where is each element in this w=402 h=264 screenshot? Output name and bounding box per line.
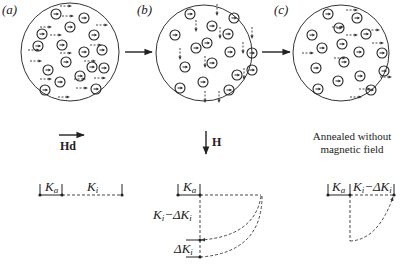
label-delta-ki: ΔKi bbox=[173, 241, 193, 257]
dashed-right-arrow-icon bbox=[96, 23, 108, 26]
grain-icon bbox=[333, 76, 343, 86]
dashed-right-arrow-icon bbox=[346, 33, 358, 36]
label-ka: Ka bbox=[44, 179, 59, 195]
grain-icon bbox=[198, 77, 208, 87]
energy-diagram-b: Ka Ki−ΔKi ΔKi bbox=[152, 179, 262, 259]
grain-icon bbox=[207, 58, 217, 68]
grain-icon bbox=[323, 9, 333, 19]
grain-icon bbox=[51, 9, 61, 19]
grain-icon bbox=[65, 22, 75, 32]
grain-icon bbox=[352, 13, 362, 23]
grain-icon bbox=[377, 48, 387, 58]
grain-icon bbox=[55, 77, 65, 87]
grain-icon bbox=[355, 71, 365, 81]
dashed-down-arrow-icon bbox=[203, 56, 206, 68]
panel-label: (c) bbox=[274, 2, 288, 17]
dashed-right-arrow-icon bbox=[58, 95, 70, 98]
dashed-right-arrow-icon bbox=[62, 14, 74, 17]
dashed-right-arrow-icon bbox=[302, 51, 314, 54]
caption-line-1: Annealed without bbox=[311, 130, 393, 143]
grain-icon bbox=[202, 38, 212, 48]
grain-icon bbox=[91, 84, 101, 94]
label-ki-minus-delta-c: Ki−ΔKi bbox=[352, 179, 392, 195]
grain-icon bbox=[61, 57, 71, 67]
field-label-hd: Hd bbox=[60, 139, 76, 153]
grain-icon bbox=[313, 84, 323, 94]
dashed-down-arrow-icon bbox=[250, 27, 253, 39]
grain-icon bbox=[57, 40, 67, 50]
dashed-right-arrow-icon bbox=[90, 43, 102, 46]
dashed-right-arrow-icon bbox=[40, 25, 52, 28]
grain-icon bbox=[40, 85, 50, 95]
grain-icon bbox=[89, 30, 99, 40]
energy-diagram-c: Ka Ki−ΔKi bbox=[326, 179, 395, 241]
dashed-right-arrow-icon bbox=[40, 77, 52, 80]
grain-icon bbox=[223, 29, 233, 39]
field-indicator-h: H bbox=[206, 131, 222, 154]
grain-icon bbox=[185, 9, 195, 19]
panel-label: (b) bbox=[137, 2, 152, 17]
grain-icon bbox=[87, 62, 97, 72]
dashed-down-arrow-icon bbox=[178, 48, 181, 60]
dashed-down-arrow-icon bbox=[241, 42, 244, 54]
label-ki: Ki bbox=[86, 179, 99, 195]
panel-c: (c) bbox=[274, 2, 392, 101]
dashed-right-arrow-icon bbox=[372, 41, 384, 44]
grain-icon bbox=[311, 63, 321, 73]
grain-icon bbox=[99, 63, 109, 73]
grain-icon bbox=[337, 39, 347, 49]
grain-icon bbox=[79, 47, 89, 57]
grain-panels: (a)(b)(c) bbox=[2, 2, 392, 103]
dashed-down-arrow-icon bbox=[215, 4, 218, 16]
grain-icon bbox=[191, 43, 201, 53]
grain-icon bbox=[354, 47, 364, 57]
field-indicator-hd: Hd bbox=[59, 135, 84, 153]
caption-line-2: magnetic field bbox=[311, 143, 393, 156]
panel-a: (a) bbox=[2, 2, 119, 101]
grain-icon bbox=[43, 65, 53, 75]
dashed-right-arrow-icon bbox=[50, 33, 62, 36]
grain-icon bbox=[175, 83, 185, 93]
dashed-right-arrow-icon bbox=[94, 76, 106, 79]
grain-icon bbox=[334, 23, 344, 33]
dashed-down-arrow-icon bbox=[217, 91, 220, 103]
grain-icon bbox=[232, 70, 242, 80]
grain-icon bbox=[307, 30, 317, 40]
dashed-right-arrow-icon bbox=[346, 8, 358, 11]
dashed-down-arrow-icon bbox=[218, 27, 221, 39]
panel-label: (a) bbox=[2, 2, 17, 17]
grain-icon bbox=[180, 62, 190, 72]
grain-icon bbox=[207, 21, 217, 31]
sample-boundary bbox=[21, 3, 119, 101]
dashed-right-arrow-icon bbox=[60, 51, 72, 54]
label-ka-c: Ka bbox=[331, 179, 346, 195]
dashed-right-arrow-icon bbox=[60, 4, 72, 7]
grain-icon bbox=[225, 47, 235, 57]
label-ka-b: Ka bbox=[182, 179, 197, 195]
grain-icon bbox=[37, 29, 47, 39]
dashed-right-arrow-icon bbox=[76, 86, 88, 89]
grain-icon bbox=[317, 43, 327, 53]
panel-b: (b) bbox=[137, 2, 257, 103]
dashed-right-arrow-icon bbox=[30, 59, 42, 62]
energy-diagram-a: Ka Ki bbox=[38, 179, 123, 197]
annealed-caption: Annealed without magnetic field bbox=[311, 130, 393, 156]
grain-icon bbox=[361, 29, 371, 39]
grain-icon bbox=[170, 30, 180, 40]
field-label-h: H bbox=[212, 135, 222, 149]
label-ki-minus-delta-b: Ki−ΔKi bbox=[152, 207, 192, 223]
dashed-down-arrow-icon bbox=[194, 20, 197, 32]
grain-icon bbox=[79, 13, 89, 23]
